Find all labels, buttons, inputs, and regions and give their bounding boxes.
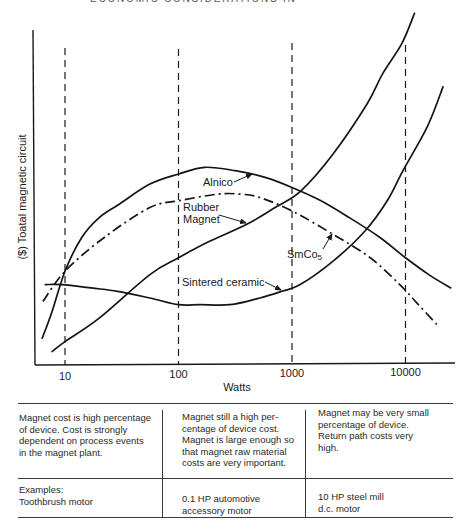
table-top-rule (18, 403, 453, 404)
label-alnico: Alnico (203, 176, 233, 188)
x-axis-label: Watts (223, 381, 251, 393)
table-cell-mid-power-example: 0.1 HP automotive accessory motor (182, 493, 260, 516)
label-sintered-ceramic: Sintered ceramic (182, 276, 265, 288)
curve-rubber-magnet (52, 13, 414, 351)
table-bottom-rule (18, 517, 453, 518)
label-smco5-subscript: 5 (318, 253, 322, 262)
label-smco5: SmCo5 (287, 248, 322, 264)
x-tick-label-100: 100 (169, 368, 187, 380)
x-axis (35, 363, 455, 365)
table-cell-high-power-description: Magnet may be very small percentage of d… (318, 407, 429, 453)
label-rubber-magnet: Rubber Magnet (183, 201, 220, 225)
y-axis (33, 30, 35, 365)
table-cell-low-power-description: Magnet cost is high percentage of device… (19, 412, 151, 458)
cost-vs-power-chart: 10 100 1000 10000 (0, 0, 469, 400)
curve-sintered-ceramic (45, 87, 443, 305)
x-tick-label-1000: 1000 (280, 367, 304, 379)
arrow-smco5-icon (323, 234, 332, 249)
label-smco5-main: SmCo (287, 248, 318, 260)
curve-alnico (42, 167, 451, 338)
table-cell-high-power-example: 10 HP steel mill d.c. motor (318, 491, 384, 514)
y-axis-label: ($) Toatal magnetic circuit (16, 134, 28, 259)
arrow-sintered-ceramic-icon (265, 282, 281, 290)
x-tick-label-10: 10 (59, 370, 71, 382)
x-tick-label-10000: 10000 (390, 366, 421, 378)
table-row-divider (18, 478, 453, 479)
table-cell-low-power-example: Examples: Toothbrush motor (19, 484, 93, 507)
table-cell-mid-power-description: Magnet still a high per- centage of devi… (182, 411, 294, 469)
table-column-divider-1 (162, 410, 163, 517)
arrow-alnico-icon (234, 174, 252, 182)
arrow-rubber-magnet-icon (219, 215, 246, 223)
table-column-divider-2 (305, 410, 306, 517)
